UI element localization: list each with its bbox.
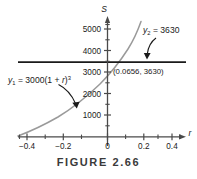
y-tick-label: 2000: [83, 90, 102, 99]
y-tick-label: 5000: [83, 25, 102, 34]
curve-equation-label: y1 = 3000(1 + r)3: [7, 75, 71, 86]
x-tick-label: −0.4: [19, 142, 36, 151]
line-annotation-arrowhead: [144, 53, 151, 60]
y-axis-label: S: [101, 4, 107, 14]
x-tick-label: 0: [105, 142, 110, 151]
curve-eq-body: = 3000(1 +: [16, 75, 62, 85]
x-tick-labels: −0.4 −0.2 0 0.2 0.4: [19, 142, 178, 151]
y-tick-label: 1000: [83, 111, 102, 120]
y-tick-label: 3000: [83, 68, 102, 77]
y-axis-arrowhead: [105, 16, 110, 23]
x-tick-label: −0.2: [55, 142, 72, 151]
curve-annotation-arrow: [59, 85, 76, 104]
figure-container: S r 1000 2000 3000 4000 5000 −0.4 −0.2 0…: [0, 0, 197, 179]
x-tick-label: 0.4: [166, 142, 178, 151]
y-tick-label: 4000: [83, 47, 102, 56]
curve-eq-exponent: 3: [68, 75, 71, 81]
line-annotation-arrow: [147, 38, 156, 54]
plot-area: S r 1000 2000 3000 4000 5000 −0.4 −0.2 0…: [0, 0, 197, 179]
figure-caption: FIGURE 2.66: [0, 156, 197, 168]
line-equation-label: y2 = 3630: [142, 25, 180, 36]
intersection-point-label: (0.0656, 3630): [113, 67, 164, 76]
y-tick-labels: 1000 2000 3000 4000 5000: [83, 25, 102, 120]
x-tick-label: 0.2: [138, 142, 150, 151]
x-axis-label: r: [189, 128, 193, 138]
line-eq-body: = 3630: [151, 25, 180, 35]
